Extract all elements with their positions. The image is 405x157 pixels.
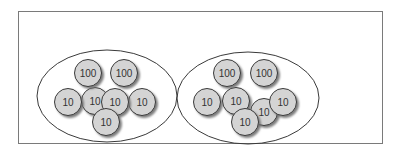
coin-label: 10 (201, 97, 213, 108)
coin-label: 10 (258, 107, 270, 118)
coin-label: 10 (239, 117, 251, 128)
coin-label: 10 (136, 97, 148, 108)
coin-10: 10 (129, 89, 156, 116)
coin-label: 10 (230, 96, 242, 107)
coin-label: 10 (277, 97, 289, 108)
coin-10: 10 (55, 89, 82, 116)
coin-10: 10 (93, 109, 120, 136)
coin-10: 10 (232, 109, 259, 136)
coin-label: 10 (100, 117, 112, 128)
coin-10: 10 (194, 89, 221, 116)
coin-label: 100 (256, 68, 273, 79)
coin-100: 100 (251, 60, 278, 87)
coin-label: 10 (109, 97, 121, 108)
group-right: 1001001010101010 (177, 52, 319, 144)
coin-label: 100 (219, 68, 236, 79)
coin-label: 10 (89, 96, 101, 107)
group-left: 1010010010101010 (37, 50, 177, 142)
coin-label: 100 (80, 68, 97, 79)
coin-100: 100 (75, 60, 102, 87)
coin-label: 100 (116, 68, 133, 79)
coin-groups-diagram: 10100100101010101001001010101010 (0, 0, 405, 157)
coin-10: 10 (270, 89, 297, 116)
coin-100: 100 (214, 60, 241, 87)
coin-100: 100 (111, 60, 138, 87)
coin-label: 10 (62, 97, 74, 108)
